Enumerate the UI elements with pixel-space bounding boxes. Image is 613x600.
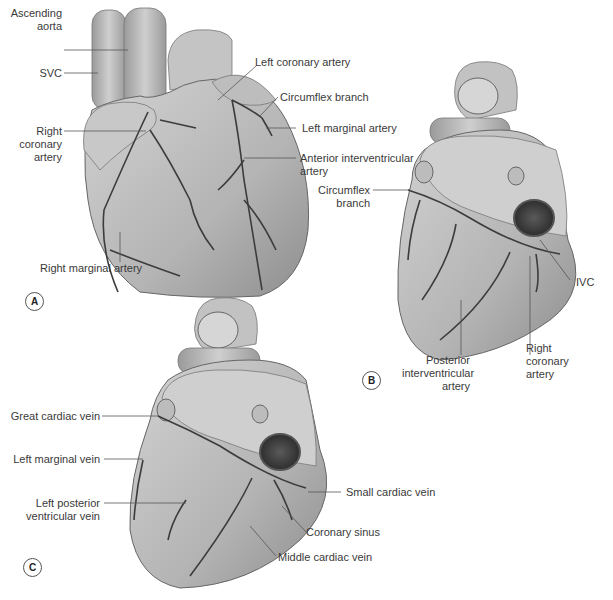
label-line: aorta xyxy=(4,20,62,33)
label-line: branch xyxy=(310,197,370,210)
label-middle-cardiac-vein: Middle cardiac vein xyxy=(278,551,372,564)
panel-badge-a: A xyxy=(25,292,44,311)
label-line: interventricular xyxy=(402,367,470,380)
label-circumflex-branch-b: Circumflex branch xyxy=(310,184,370,210)
label-right-coronary-artery-a: Right coronary artery xyxy=(4,125,62,164)
label-small-cardiac-vein: Small cardiac vein xyxy=(346,486,435,499)
label-right-coronary-artery-b: Right coronary artery xyxy=(526,342,569,381)
label-left-marginal-artery: Left marginal artery xyxy=(302,122,397,135)
label-anterior-interventricular-artery: Anterior interventricular artery xyxy=(300,152,414,178)
label-circumflex-branch-a: Circumflex branch xyxy=(280,91,369,104)
label-right-marginal-artery: Right marginal artery xyxy=(40,262,142,275)
heart-a xyxy=(84,8,309,297)
label-line: artery xyxy=(300,165,414,178)
label-ivc: IVC xyxy=(576,276,594,289)
heart-c xyxy=(130,298,327,588)
label-line: artery xyxy=(526,368,569,381)
label-line: Ascending xyxy=(4,7,62,20)
label-left-posterior-ventricular-vein: Left posterior ventricular vein xyxy=(6,497,100,523)
label-line: artery xyxy=(402,380,470,393)
label-posterior-interventricular-artery: Posterior interventricular artery xyxy=(402,354,470,393)
heart-b xyxy=(398,62,576,360)
label-line: Anterior interventricular xyxy=(300,152,414,165)
label-line: Right xyxy=(526,342,569,355)
label-line: Circumflex xyxy=(310,184,370,197)
panel-badge-c: C xyxy=(23,558,42,577)
label-line: Right xyxy=(4,125,62,138)
label-svc: SVC xyxy=(4,67,62,80)
label-ascending-aorta: Ascending aorta xyxy=(4,7,62,33)
label-line: coronary xyxy=(4,138,62,151)
label-line: Posterior xyxy=(402,354,470,367)
label-coronary-sinus: Coronary sinus xyxy=(306,526,380,539)
label-great-cardiac-vein: Great cardiac vein xyxy=(6,410,100,423)
label-left-marginal-vein: Left marginal vein xyxy=(6,453,100,466)
label-line: Left posterior xyxy=(6,497,100,510)
label-line: coronary xyxy=(526,355,569,368)
label-line: artery xyxy=(4,151,62,164)
panel-badge-b: B xyxy=(362,371,381,390)
label-line: ventricular vein xyxy=(6,510,100,523)
label-left-coronary-artery: Left coronary artery xyxy=(255,56,350,69)
